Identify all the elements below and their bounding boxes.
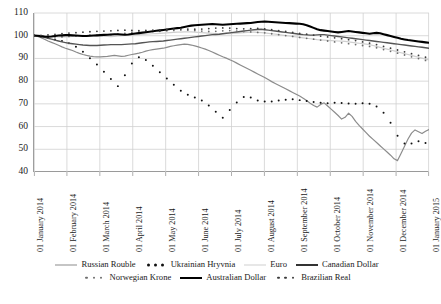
legend-label: Russian Rouble: [81, 259, 135, 270]
legend-swatch-icon: [145, 261, 167, 268]
legend-label: Brazilian Real: [301, 272, 350, 283]
legend-swatch-icon: [180, 274, 202, 281]
x-tick-label: 01 October 2014: [334, 197, 342, 252]
legend-row: Norwegian KroneAustralian DollarBrazilia…: [0, 271, 434, 284]
series-lines: [34, 13, 429, 171]
legend-swatch-icon: [275, 274, 297, 281]
y-axis: 405060708090100110: [0, 0, 33, 185]
legend-label: Norwegian Krone: [109, 272, 171, 283]
legend-swatch-icon: [296, 261, 318, 268]
legend-label: Canadian Dollar: [322, 259, 379, 270]
legend-swatch-icon: [83, 274, 105, 281]
x-tick-label: 01 May 2014: [169, 208, 177, 252]
legend-label: Ukrainian Hryvnia: [171, 259, 236, 270]
x-axis: 01 January 201401 February 201401 March …: [33, 174, 429, 254]
x-tick-label: 01 June 2014: [202, 208, 210, 252]
legend-item[interactable]: Ukrainian Hryvnia: [145, 259, 236, 270]
legend-item[interactable]: Canadian Dollar: [296, 259, 379, 270]
x-tick-label: 01 January 2014: [37, 198, 45, 252]
y-tick-label: 80: [19, 76, 29, 86]
legend-swatch-icon: [55, 261, 77, 268]
legend-item[interactable]: Brazilian Real: [275, 272, 350, 283]
y-tick-label: 60: [19, 122, 29, 132]
x-tick-label: 01 January 2015: [433, 198, 441, 252]
y-tick-label: 110: [14, 8, 28, 18]
x-tick-label: 01 September 2014: [301, 188, 309, 252]
legend-label: Euro: [270, 259, 287, 270]
y-tick-label: 40: [19, 167, 29, 177]
legend-item[interactable]: Australian Dollar: [180, 272, 266, 283]
y-tick-label: 50: [19, 144, 29, 154]
y-tick-label: 70: [19, 99, 29, 109]
plot-area: [33, 13, 429, 172]
legend-label: Australian Dollar: [206, 272, 266, 283]
x-tick-label: 01 April 2014: [136, 207, 144, 253]
y-tick-label: 100: [14, 31, 28, 41]
x-tick-label: 01 March 2014: [103, 202, 111, 252]
legend-item[interactable]: Euro: [244, 259, 287, 270]
chart-legend: Russian RoubleUkrainian HryvniaEuroCanad…: [0, 258, 434, 284]
x-tick-label: 01 August 2014: [268, 200, 276, 252]
x-tick-label: 01 December 2014: [400, 190, 408, 252]
x-tick-label: 01 July 2014: [235, 210, 243, 252]
x-tick-label: 01 November 2014: [367, 189, 375, 252]
x-tick-label: 01 February 2014: [70, 194, 78, 252]
legend-row: Russian RoubleUkrainian HryvniaEuroCanad…: [0, 258, 434, 271]
y-tick-label: 90: [19, 53, 29, 63]
legend-item[interactable]: Russian Rouble: [55, 259, 135, 270]
legend-swatch-icon: [244, 261, 266, 268]
legend-item[interactable]: Norwegian Krone: [83, 272, 171, 283]
